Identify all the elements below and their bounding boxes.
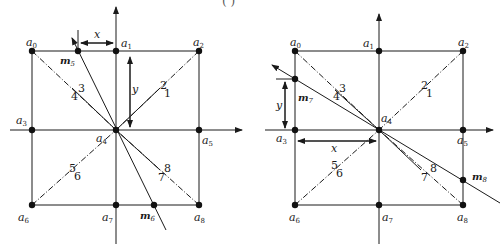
right-m-left-label: m7 <box>298 93 313 105</box>
right-dir-6: 6 <box>336 168 343 179</box>
right-m-right-label: m8 <box>472 172 487 184</box>
left-node-a7: a7 <box>102 212 113 225</box>
left-dim-x: x <box>94 29 100 40</box>
left-node-a5: a5 <box>202 135 213 148</box>
left-node-a2: a2 <box>193 37 204 50</box>
diagram-stage: ( ) <box>0 0 503 244</box>
left-node-a8: a8 <box>194 212 205 225</box>
left-node-a1: a1 <box>121 38 132 51</box>
right-dir-1: 1 <box>426 88 433 99</box>
right-node-a4: a4 <box>381 113 392 126</box>
right-dir-4: 4 <box>333 91 340 102</box>
right-dir-8: 8 <box>430 163 437 174</box>
left-node-a0: a0 <box>26 37 37 50</box>
right-m-line <box>272 65 500 203</box>
right-dim-y: y <box>276 100 282 111</box>
left-dim-y: y <box>132 84 138 95</box>
left-dir-4: 4 <box>71 91 78 102</box>
right-node-a1: a1 <box>363 38 374 51</box>
right-node-a6: a6 <box>289 212 300 225</box>
right-node-a2: a2 <box>458 37 469 50</box>
right-dir-3: 3 <box>339 83 346 94</box>
left-node-a4: a4 <box>96 133 107 146</box>
right-dir-7: 7 <box>421 172 428 183</box>
left-dir-8: 8 <box>164 163 171 174</box>
left-dir-1: 1 <box>164 88 171 99</box>
right-node-a0: a0 <box>290 37 301 50</box>
right-node-a8: a8 <box>457 212 468 225</box>
right-node-a5: a5 <box>457 135 468 148</box>
left-node-a6: a6 <box>18 212 29 225</box>
left-node-a3: a3 <box>16 115 27 128</box>
right-node-a3: a3 <box>276 133 287 146</box>
right-dim-x: x <box>331 143 337 154</box>
right-node-a7: a7 <box>382 212 393 225</box>
left-m-lower-label: m6 <box>140 211 155 223</box>
left-m-upper-label: m5 <box>60 56 75 68</box>
left-dir-6: 6 <box>74 171 81 182</box>
left-dir-3: 3 <box>78 83 85 94</box>
left-m-line <box>72 38 166 230</box>
diagram-canvas <box>0 0 503 244</box>
